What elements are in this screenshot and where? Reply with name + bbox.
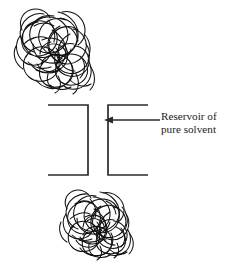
figure-root: Reservoir of pure solvent	[0, 0, 232, 268]
polymer-random-coil-top	[14, 9, 94, 94]
reservoir-arrow	[104, 116, 160, 123]
reservoir-label-line-2: pure solvent	[161, 123, 231, 136]
left-compartment-bracket	[48, 105, 88, 175]
polymer-random-coil-bottom	[60, 190, 134, 260]
right-compartment-bracket	[108, 105, 148, 175]
reservoir-label-line-1: Reservoir of	[161, 110, 231, 123]
reservoir-label: Reservoir of pure solvent	[161, 110, 231, 135]
